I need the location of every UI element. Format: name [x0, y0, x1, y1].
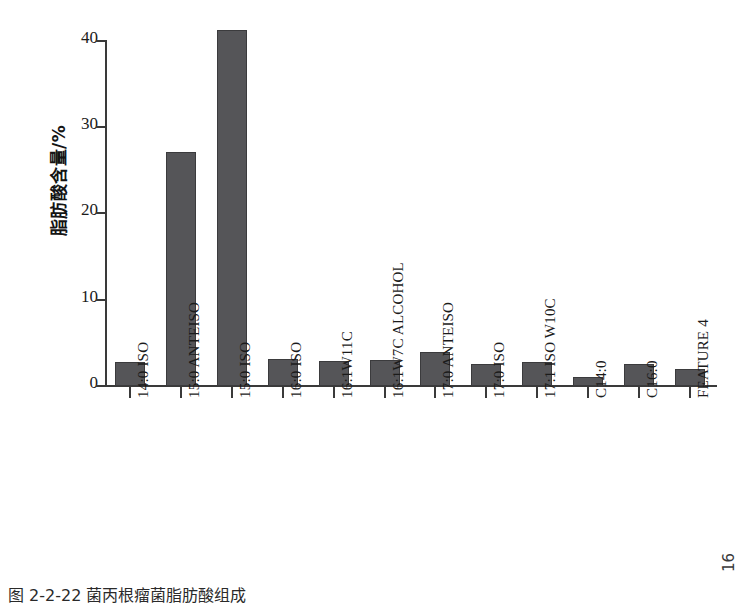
x-tick-label: 17:0 ANTEISO: [441, 208, 456, 398]
page-number: 16: [720, 553, 738, 572]
x-tick-label: 17:1 ISO W10C: [543, 208, 558, 398]
x-tick-mark: [536, 387, 538, 398]
x-tick-mark: [689, 387, 691, 398]
x-tick-label: FEATURE 4: [696, 208, 711, 398]
x-tick-mark: [333, 387, 335, 398]
x-tick-label: C16:0: [645, 208, 660, 398]
x-tick-label: 17:0 ISO: [492, 208, 507, 398]
x-tick-label: 15:0 ISO: [238, 208, 253, 398]
x-tick-mark: [129, 387, 131, 398]
y-tick-label: 10: [38, 288, 98, 305]
x-tick-mark: [638, 387, 640, 398]
x-tick-label: 14:0 ISO: [136, 208, 151, 398]
x-tick-mark: [282, 387, 284, 398]
x-tick-mark: [434, 387, 436, 398]
y-tick-label: 0: [38, 374, 98, 391]
x-tick-mark: [231, 387, 233, 398]
figure-caption: 图 2-2-22 菌丙根瘤菌脂肪酸组成: [8, 586, 246, 605]
x-tick-label: C14:0: [594, 208, 609, 398]
x-tick-mark: [485, 387, 487, 398]
x-tick-mark: [587, 387, 589, 398]
x-axis-labels: 14:0 ISO15:0 ANTEISO15:0 ISO16:0 ISO16:1…: [105, 398, 717, 578]
x-tick-label: 16:1W11C: [340, 208, 355, 398]
x-tick-label: 16:1W7C ALCOHOL: [391, 208, 406, 398]
y-tick-label: 30: [38, 115, 98, 132]
x-tick-label: 16:0 ISO: [289, 208, 304, 398]
x-tick-mark: [384, 387, 386, 398]
y-tick-label: 40: [38, 29, 98, 46]
y-tick-label: 20: [38, 201, 98, 218]
x-tick-label: 15:0 ANTEISO: [187, 208, 202, 398]
x-tick-mark: [180, 387, 182, 398]
